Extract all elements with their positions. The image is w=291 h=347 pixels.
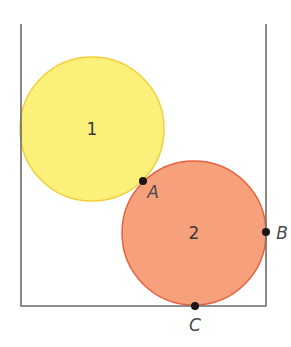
- container-diagram: [0, 0, 291, 347]
- point-c-label: C: [189, 317, 201, 334]
- point-b-label: B: [276, 225, 288, 242]
- circle-2-label: 2: [189, 225, 200, 242]
- point-a-marker: [139, 177, 147, 185]
- point-a-label: A: [147, 184, 159, 201]
- point-c-marker: [191, 302, 199, 310]
- circle-1-label: 1: [87, 121, 98, 138]
- point-b-marker: [262, 228, 270, 236]
